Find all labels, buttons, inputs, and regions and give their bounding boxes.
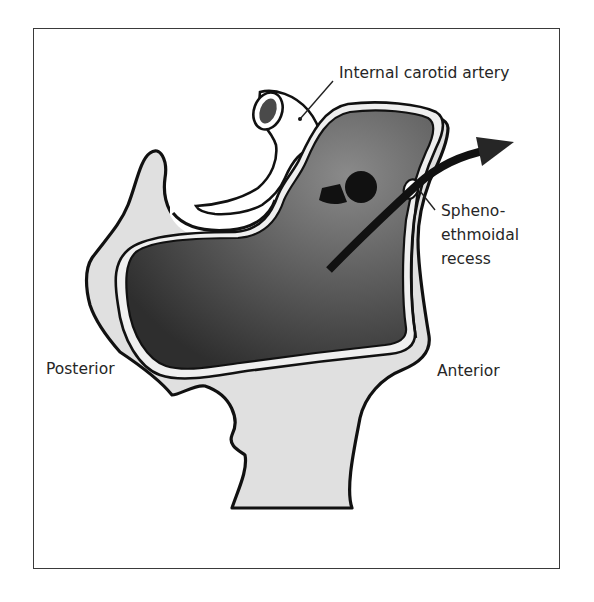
label-anterior: Anterior [437, 361, 500, 382]
label-sphenoethmoidal-recess: Spheno- ethmoidal recess [441, 199, 519, 271]
label-internal-carotid-artery: Internal carotid artery [339, 63, 509, 84]
ostium-circle [345, 171, 377, 203]
sphenoid-sinus-illustration [0, 0, 594, 602]
diagram-stage: Internal carotid artery Spheno- ethmoida… [0, 0, 594, 602]
label-posterior: Posterior [46, 359, 115, 380]
drainage-arrow-head [476, 137, 514, 166]
